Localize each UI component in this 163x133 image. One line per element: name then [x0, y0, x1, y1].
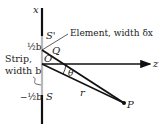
label-q: Q — [52, 45, 60, 56]
diffraction-diagram: x z S' Q O S P Element, width δx Strip, … — [0, 0, 163, 133]
strip-label-line1: Strip, — [5, 53, 32, 64]
label-s: S — [46, 91, 53, 102]
element-label: Element, width δx — [70, 28, 153, 38]
label-p: P — [126, 99, 134, 110]
x-axis-label: x — [33, 4, 39, 15]
half-b-bottom-label: −½b — [20, 92, 42, 102]
label-o: O — [44, 53, 52, 64]
r-label: r — [80, 87, 86, 98]
label-s-prime: S' — [46, 30, 56, 41]
half-b-top-label: ½b — [27, 42, 42, 52]
theta-label: θ — [68, 68, 74, 78]
z-axis-label: z — [152, 58, 159, 69]
strip-label-line2: width b — [5, 65, 41, 76]
point-p-dot — [122, 101, 126, 105]
strip-leader — [33, 77, 41, 85]
